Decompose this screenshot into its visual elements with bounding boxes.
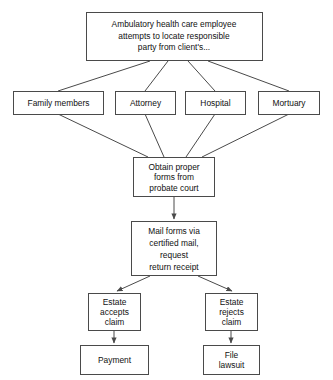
node-attorney-label: Attorney [130, 98, 162, 108]
node-estate-rejects: Estate rejects claim [206, 294, 258, 331]
node-start: Ambulatory health care employee attempts… [87, 13, 263, 61]
connector-start-to-hospital [188, 61, 215, 91]
connector-group-mail-to-estate [117, 276, 232, 291]
node-file-lawsuit: File lawsuit [204, 346, 260, 375]
connector-start-to-attorney [145, 61, 168, 91]
node-estate-accepts-line-1: Estate [103, 297, 127, 307]
node-hospital: Hospital [186, 92, 246, 115]
connector-group-sources-to-obtain [58, 114, 289, 157]
node-mortuary: Mortuary [259, 92, 320, 115]
flowchart-diagram: Ambulatory health care employee attempts… [0, 0, 333, 380]
node-obtain-forms-line-1: Obtain proper [148, 162, 199, 172]
connector-mortuary-to-obtain [202, 114, 289, 157]
node-file-lawsuit-line-1: File [225, 350, 239, 360]
connector-attorney-to-obtain [145, 114, 164, 157]
connector-start-to-mortuary [208, 61, 289, 91]
flowchart-canvas: Ambulatory health care employee attempts… [0, 0, 333, 380]
node-start-line-1: Ambulatory health care employee [112, 19, 237, 29]
node-mail-forms-line-4: return receipt [149, 262, 199, 272]
node-estate-rejects-line-2: rejects [219, 307, 244, 317]
connector-mail-to-estate-rejects [198, 276, 232, 291]
node-attorney: Attorney [116, 92, 176, 115]
node-mail-forms: Mail forms via certified mail, request r… [132, 222, 217, 276]
node-estate-rejects-line-3: claim [222, 317, 242, 327]
node-payment: Payment [81, 346, 149, 375]
node-obtain-forms-line-3: probate court [149, 183, 199, 193]
connector-family-to-obtain [58, 114, 148, 157]
node-start-line-3: party from client's... [138, 42, 210, 52]
node-file-lawsuit-line-2: lawsuit [219, 360, 245, 370]
node-family-members-label: Family members [28, 98, 90, 108]
node-mail-forms-line-2: certified mail, [149, 238, 198, 248]
node-payment-label: Payment [98, 355, 132, 365]
connector-group-start-to-sources [58, 61, 289, 91]
node-start-line-2: attempts to locate responsible [118, 31, 230, 41]
connector-start-to-family [58, 61, 150, 91]
node-obtain-forms: Obtain proper forms from probate court [134, 158, 215, 197]
node-mail-forms-line-1: Mail forms via [148, 226, 200, 236]
node-obtain-forms-line-2: forms from [154, 172, 194, 182]
node-hospital-label: Hospital [200, 98, 230, 108]
node-estate-accepts-line-3: claim [105, 317, 125, 327]
node-estate-rejects-line-1: Estate [220, 297, 244, 307]
node-estate-accepts-line-2: accepts [100, 307, 129, 317]
node-estate-accepts: Estate accepts claim [89, 294, 141, 331]
node-mortuary-label: Mortuary [272, 98, 306, 108]
connector-hospital-to-obtain [186, 114, 215, 157]
node-mail-forms-line-3: request [160, 250, 189, 260]
node-family-members: Family members [14, 92, 104, 115]
connector-mail-to-estate-accepts [117, 276, 150, 291]
